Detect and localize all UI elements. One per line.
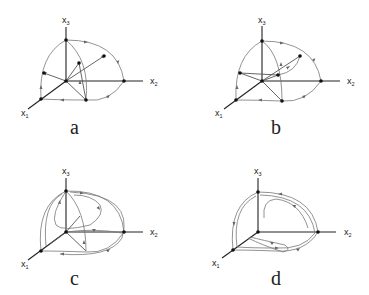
fixed-point-origin [64,230,68,234]
fixed-point-origin [256,230,260,234]
fixed-point-x2 [316,230,320,234]
x3-label: x3 [254,166,262,177]
x3-label: x3 [258,15,266,26]
x2-label: x2 [150,76,158,87]
arc-x2-x1 [41,232,124,252]
ray-to-x1 [51,232,66,243]
x3-label: x3 [62,166,70,177]
ray-to-x2x3 [262,56,300,81]
fixed-point-x2 [122,79,126,83]
panel-label-a: a [70,116,79,138]
x1-label: x1 [212,258,220,269]
fixed-point-x1x2 [84,98,88,102]
fixed-point-x2x3 [102,54,106,58]
ray-to-x1x3 [44,73,66,81]
fixed-point-x2 [122,230,126,234]
panel-a: x3 x2 x1 a [21,15,158,138]
fixed-point-x1 [39,97,43,101]
orbit-near-cycle [236,195,315,248]
arc-x3-x2 [258,192,318,232]
x1-axis [224,81,262,109]
fixed-point-x1x3 [238,71,242,75]
x2-label: x2 [344,227,352,238]
orbit-inner-lower [248,237,288,252]
fixed-point-interior [276,73,280,77]
x2-label: x2 [347,76,355,87]
fixed-point-x3 [64,38,68,42]
figure-canvas: x3 x2 x1 a x3 x2 x1 b [0,0,369,295]
x1-label: x1 [21,108,29,119]
ray-to-x2x3 [66,56,104,81]
fixed-point-x2 [319,79,323,83]
panel-d: x3 x2 x1 d [212,166,352,289]
panel-label-c: c [70,267,79,289]
arc-x3-x2 [66,191,124,232]
ray-to-x1x2 [262,81,282,101]
fixed-point-origin [260,79,264,83]
fixed-point-x1 [231,248,235,252]
fixed-point-x3 [260,39,264,43]
panel-b: x3 x2 x1 b [215,15,355,138]
fixed-point-x1 [39,249,43,253]
x1-label: x1 [21,259,29,270]
fixed-point-origin [64,79,68,83]
fixed-point-x2x3 [298,54,302,58]
fixed-point-x1 [234,98,238,102]
x1-label: x1 [215,108,223,119]
panel-c: x3 x2 x1 c [21,166,158,289]
fixed-point-x1x3 [42,71,46,75]
fixed-point-x3 [256,190,260,194]
ray-interior [66,216,80,232]
ray-interior [66,63,79,81]
fixed-point-interior [77,61,81,65]
panel-label-d: d [271,267,281,289]
x3-label: x3 [62,15,70,26]
x2-label: x2 [150,227,158,238]
arc-x3-mid [262,41,282,101]
fixed-point-x1x2 [280,99,284,103]
fixed-point-x3 [64,189,68,193]
ray-to-x1x2 [66,232,86,251]
x1-axis [222,232,258,258]
orbit-spiral [54,191,101,229]
x1-axis [28,81,66,109]
panel-label-b: b [271,116,281,138]
